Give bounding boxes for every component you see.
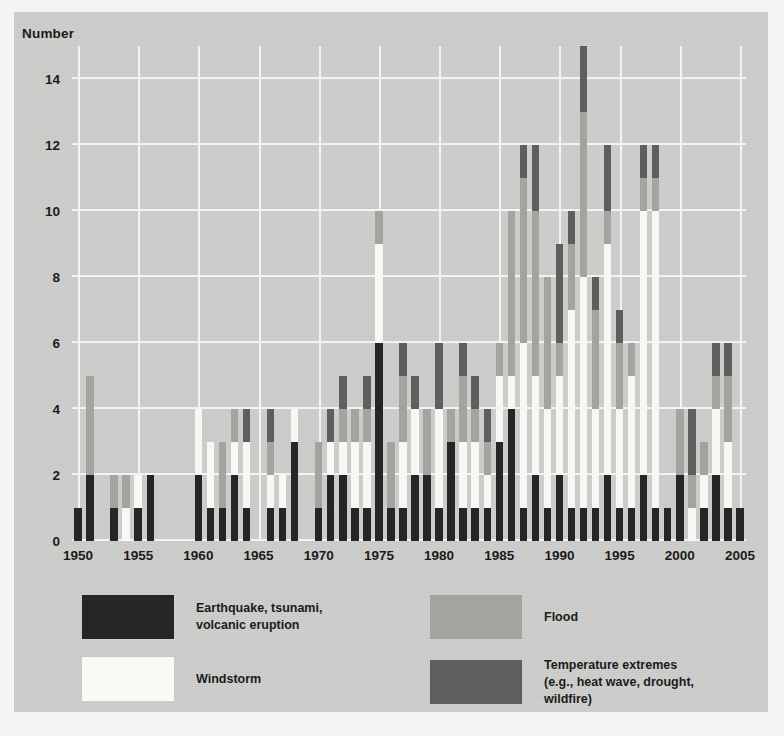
bar-segment-quake <box>724 508 731 541</box>
bar-segment-temp <box>652 145 659 178</box>
bar-segment-quake <box>375 343 382 541</box>
bar-segment-quake <box>496 442 503 541</box>
bar-segment-wind <box>351 442 358 508</box>
bar-segment-temp <box>339 376 346 409</box>
bar-1974 <box>363 376 370 541</box>
bar-segment-wind <box>267 475 274 508</box>
bar-segment-wind <box>544 409 551 508</box>
bar-segment-wind <box>339 442 346 475</box>
bar-1990 <box>556 244 563 541</box>
legend-label-flood: Flood <box>544 609 578 626</box>
x-axis-ticks: 1950195519601965197019751980198519901995… <box>72 548 746 574</box>
bar-segment-wind <box>568 310 575 508</box>
bar-segment-wind <box>231 442 238 475</box>
legend-item-flood: Flood <box>430 595 578 639</box>
bar-segment-flood <box>496 343 503 376</box>
bar-segment-wind <box>688 508 695 541</box>
bar-1955 <box>134 475 141 541</box>
bar-1985 <box>496 343 503 541</box>
x-axis-tick-label: 1970 <box>304 548 334 563</box>
bar-segment-flood <box>532 211 539 376</box>
x-axis-tick-label: 1990 <box>544 548 574 563</box>
bar-1995 <box>616 310 623 541</box>
bar-segment-wind <box>484 475 491 508</box>
bar-segment-quake <box>712 475 719 541</box>
bar-segment-quake <box>736 508 743 541</box>
bar-segment-temp <box>459 343 466 376</box>
bar-segment-flood <box>459 376 466 442</box>
bar-segment-flood <box>712 376 719 409</box>
bar-segment-temp <box>616 310 623 343</box>
bar-segment-quake <box>580 508 587 541</box>
bar-segment-quake <box>556 475 563 541</box>
legend-item-earthquake: Earthquake, tsunami, volcanic eruption <box>82 595 322 639</box>
bar-segment-temp <box>568 211 575 244</box>
bar-segment-quake <box>351 508 358 541</box>
y-axis-tick-label: 4 <box>52 402 60 417</box>
bar-segment-wind <box>520 343 527 508</box>
bar-1979 <box>423 409 430 541</box>
bar-segment-wind <box>459 442 466 508</box>
bar-segment-temp <box>363 376 370 409</box>
bar-1975 <box>375 211 382 541</box>
bar-segment-wind <box>122 508 129 541</box>
bar-segment-quake <box>134 508 141 541</box>
bar-segment-quake <box>484 508 491 541</box>
bar-segment-temp <box>688 409 695 475</box>
bar-segment-flood <box>86 376 93 475</box>
bar-1999 <box>664 508 671 541</box>
bar-segment-quake <box>74 508 81 541</box>
legend-item-windstorm: Windstorm <box>82 657 261 701</box>
bar-segment-wind <box>532 376 539 475</box>
bar-1992 <box>580 46 587 541</box>
bar-segment-temp <box>640 145 647 178</box>
bar-segment-quake <box>471 508 478 541</box>
bar-1996 <box>628 343 635 541</box>
bar-segment-wind <box>134 475 141 508</box>
bar-segment-wind <box>243 442 250 508</box>
y-axis-tick-label: 12 <box>45 138 60 153</box>
bar-segment-flood <box>652 178 659 211</box>
bar-1972 <box>339 376 346 541</box>
bar-1953 <box>110 475 117 541</box>
bar-segment-quake <box>147 475 154 541</box>
bar-segment-flood <box>339 409 346 442</box>
bar-segment-wind <box>580 277 587 508</box>
bar-segment-temp <box>520 145 527 178</box>
bar-segment-quake <box>363 508 370 541</box>
legend-swatch-windstorm-icon <box>82 657 174 701</box>
x-axis-tick-label: 1975 <box>364 548 394 563</box>
bar-segment-temp <box>267 409 274 442</box>
bar-segment-quake <box>544 508 551 541</box>
bar-2005 <box>736 508 743 541</box>
bar-segment-wind <box>508 376 515 409</box>
bar-1982 <box>459 343 466 541</box>
bar-segment-quake <box>532 475 539 541</box>
bar-segment-wind <box>604 244 611 475</box>
bar-segment-quake <box>387 508 394 541</box>
bar-segment-temp <box>592 277 599 310</box>
bar-segment-wind <box>207 442 214 508</box>
bar-1970 <box>315 442 322 541</box>
bar-1973 <box>351 409 358 541</box>
bar-segment-wind <box>399 442 406 508</box>
bar-segment-quake <box>291 442 298 541</box>
bar-segment-flood <box>363 409 370 442</box>
bar-segment-quake <box>327 475 334 541</box>
bar-segment-flood <box>315 442 322 508</box>
bar-segment-flood <box>110 475 117 508</box>
x-axis-tick-label: 2005 <box>725 548 755 563</box>
bar-segment-flood <box>423 409 430 475</box>
bar-1984 <box>484 409 491 541</box>
bar-segment-quake <box>664 508 671 541</box>
bar-segment-quake <box>676 475 683 541</box>
bar-segment-flood <box>375 211 382 244</box>
bar-segment-wind <box>592 409 599 508</box>
bar-1971 <box>327 409 334 541</box>
bar-segment-temp <box>724 343 731 376</box>
bar-segment-flood <box>724 376 731 442</box>
bar-segment-quake <box>411 475 418 541</box>
bar-1978 <box>411 376 418 541</box>
bar-1976 <box>387 442 394 541</box>
bar-1993 <box>592 277 599 541</box>
